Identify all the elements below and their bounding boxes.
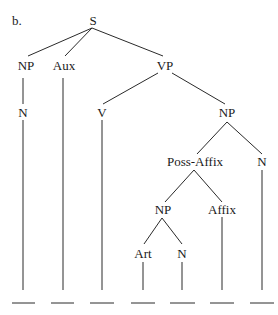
syntax-tree-diagram: b. S NP Aux VP N V NP Poss-Affix N NP Af… <box>0 0 278 315</box>
node-v: V <box>97 105 107 120</box>
node-poss-affix: Poss-Affix <box>167 154 224 169</box>
node-n-subject: N <box>18 105 28 120</box>
figure-label: b. <box>12 13 22 28</box>
node-vp: VP <box>157 58 174 73</box>
node-n-possessor: N <box>177 246 187 261</box>
node-n-object: N <box>257 154 267 169</box>
node-art: Art <box>134 246 152 261</box>
node-np-subject: NP <box>18 58 35 73</box>
node-np-object: NP <box>219 105 236 120</box>
node-affix: Affix <box>208 202 236 217</box>
node-aux: Aux <box>53 58 76 73</box>
node-np-possessor: NP <box>155 202 172 217</box>
node-s: S <box>89 13 96 28</box>
